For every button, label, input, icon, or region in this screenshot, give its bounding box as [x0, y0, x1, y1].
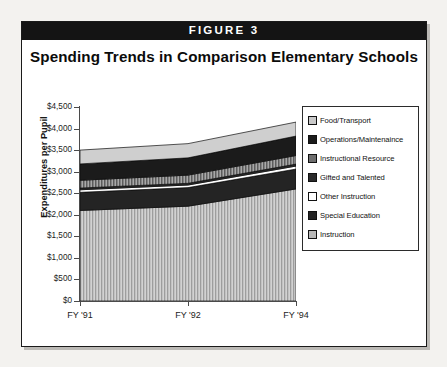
instruction-swatch [308, 230, 317, 239]
x-tick [296, 301, 297, 306]
legend-item-label: Other Instruction [320, 192, 375, 201]
x-tick [80, 301, 81, 306]
instructional-resource-swatch [308, 154, 317, 163]
chart-plot-wrapper: Expenditures per Pupil $0$500$1,000$1,50… [22, 22, 426, 346]
y-tick-label: $4,000 [26, 124, 72, 133]
y-tick-label: $1,000 [26, 253, 72, 262]
special-education-swatch [308, 211, 317, 220]
y-tick-label: $500 [26, 274, 72, 283]
y-tick-label: $0 [26, 296, 72, 305]
stacked-area-plot [80, 107, 296, 301]
y-tick-label: $1,500 [26, 231, 72, 240]
x-tick-label: FY '94 [266, 310, 326, 320]
operations-maintenance-swatch [308, 135, 317, 144]
legend-item-label: Instruction [320, 230, 354, 239]
y-tick-label: $2,500 [26, 188, 72, 197]
legend-item-label: Instructional Resource [320, 154, 394, 163]
legend-item-special-education[interactable]: Special Education [308, 209, 380, 221]
gifted-talented-swatch [308, 173, 317, 182]
x-tick-label: FY '92 [158, 310, 218, 320]
legend-item-label: Food/Transport [320, 116, 371, 125]
figure-frame: FIGURE 3 Spending Trends in Comparison E… [21, 21, 427, 347]
x-tick [188, 301, 189, 306]
legend-item-instructional-resource[interactable]: Instructional Resource [308, 152, 394, 164]
other-instruction-swatch [308, 192, 317, 201]
y-tick-label: $2,000 [26, 210, 72, 219]
figure-root: FIGURE 3 Spending Trends in Comparison E… [0, 0, 447, 367]
food-transport-swatch [308, 116, 317, 125]
y-tick-label: $3,500 [26, 145, 72, 154]
stacked-area-svg [80, 107, 296, 301]
y-tick-label: $4,500 [26, 102, 72, 111]
y-tick-label: $3,000 [26, 167, 72, 176]
legend-item-instruction[interactable]: Instruction [308, 228, 354, 240]
legend-item-operations-maintenaince[interactable]: Operations/Maintenaince [308, 133, 403, 145]
legend-item-label: Operations/Maintenaince [320, 135, 403, 144]
x-tick-label: FY '91 [50, 310, 110, 320]
legend-item-gifted-and-talented[interactable]: Gifted and Talented [308, 171, 385, 183]
chart-legend: Food/TransportOperations/MaintenainceIns… [302, 106, 419, 251]
legend-item-food-transport[interactable]: Food/Transport [308, 114, 371, 126]
legend-item-label: Gifted and Talented [320, 173, 385, 182]
legend-item-other-instruction[interactable]: Other Instruction [308, 190, 375, 202]
legend-item-label: Special Education [320, 211, 380, 220]
